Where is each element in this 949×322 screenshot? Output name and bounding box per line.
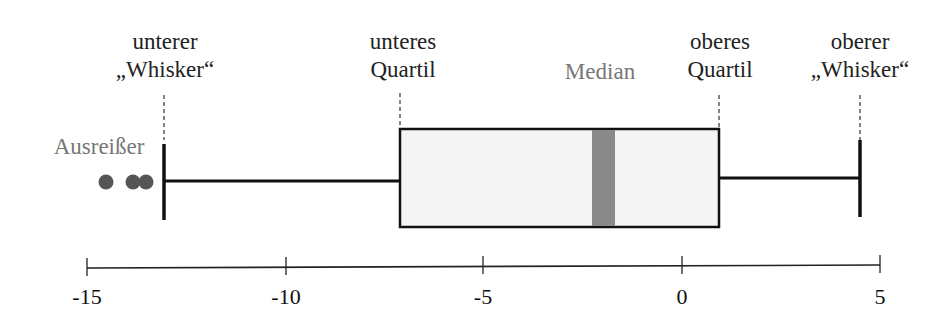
outlier-point bbox=[139, 175, 154, 190]
label-line: „Whisker“ bbox=[811, 56, 909, 84]
outlier-point bbox=[126, 175, 141, 190]
lower-whisker-label: unterer „Whisker“ bbox=[116, 28, 214, 84]
interquartile-box bbox=[400, 129, 719, 227]
x-tick-label: -5 bbox=[474, 284, 492, 310]
label-line: Quartil bbox=[370, 56, 436, 84]
label-line: unteres bbox=[370, 28, 436, 56]
label-line: „Whisker“ bbox=[116, 56, 214, 84]
label-line: oberes bbox=[687, 28, 752, 56]
x-tick-label: -15 bbox=[72, 284, 101, 310]
x-tick-label: -10 bbox=[271, 284, 300, 310]
median-label: Median bbox=[565, 58, 635, 86]
upper-whisker-label: oberer „Whisker“ bbox=[811, 28, 909, 84]
label-line: unterer bbox=[116, 28, 214, 56]
outlier-point bbox=[99, 175, 114, 190]
lower-quartile-label: unteres Quartil bbox=[370, 28, 436, 84]
median-bar bbox=[592, 130, 615, 226]
outliers-label: Ausreißer bbox=[54, 133, 145, 161]
x-tick-label: 5 bbox=[875, 284, 886, 310]
x-tick-label: 0 bbox=[677, 284, 688, 310]
label-line: oberer bbox=[811, 28, 909, 56]
upper-quartile-label: oberes Quartil bbox=[687, 28, 752, 84]
label-line: Quartil bbox=[687, 56, 752, 84]
